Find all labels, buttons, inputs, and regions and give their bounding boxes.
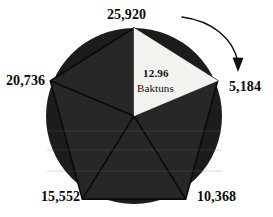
diagram-svg — [0, 0, 273, 217]
wedge-value-label: 12.96 — [143, 67, 169, 79]
label-left-20736: 20,736 — [6, 74, 45, 88]
label-bottom-right-10368: 10,368 — [197, 190, 236, 204]
arrow-head — [233, 58, 244, 73]
cycle-diagram: 25,920 5,184 10,368 15,552 20,736 12.96 … — [0, 0, 273, 217]
label-top-25920: 25,920 — [107, 8, 146, 22]
wedge-unit-label: Baktuns — [137, 82, 174, 94]
label-bottom-left-15552: 15,552 — [41, 190, 80, 204]
label-right-5184: 5,184 — [229, 80, 261, 94]
